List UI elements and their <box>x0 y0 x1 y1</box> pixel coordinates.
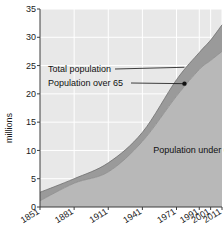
chart-canvas: 05101520253035 millions 1851188119111941… <box>0 0 224 236</box>
y-tick-20: 20 <box>26 89 36 99</box>
y-tick-35: 35 <box>26 4 36 14</box>
x-tick-1851: 1851 <box>19 206 41 225</box>
x-tick-1911: 1911 <box>88 206 110 225</box>
annotation-population-over-65: Population over 65 <box>48 78 123 88</box>
y-axis-title: millions <box>4 113 14 144</box>
x-tick-1971: 1971 <box>155 206 177 225</box>
annotation-total-population: Total population <box>48 64 111 74</box>
y-tick-10: 10 <box>26 146 36 156</box>
y-tick-15: 15 <box>26 117 36 127</box>
population-area-chart: 05101520253035 millions 1851188119111941… <box>0 0 224 236</box>
y-tick-30: 30 <box>26 32 36 42</box>
x-tick-1941: 1941 <box>121 206 143 225</box>
x-axis-tick-labels: 18511881191119411971199120012011 <box>19 206 223 225</box>
y-tick-5: 5 <box>31 174 36 184</box>
x-tick-1881: 1881 <box>53 206 75 225</box>
y-axis-tick-labels: 05101520253035 <box>26 4 40 212</box>
annotation-population-under-65: Population under 65 <box>153 145 224 155</box>
y-tick-25: 25 <box>26 61 36 71</box>
population-over-65-marker <box>182 81 186 85</box>
